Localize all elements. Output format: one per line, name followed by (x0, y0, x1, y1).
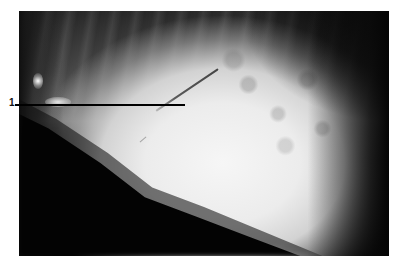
annotation-label-1: 1 (9, 97, 15, 109)
endoscopic-photo (19, 11, 389, 256)
figure: 1 (0, 0, 399, 268)
specular-highlight-2 (45, 97, 71, 107)
specular-highlight (33, 73, 43, 89)
annotation-leader-line (17, 104, 185, 106)
